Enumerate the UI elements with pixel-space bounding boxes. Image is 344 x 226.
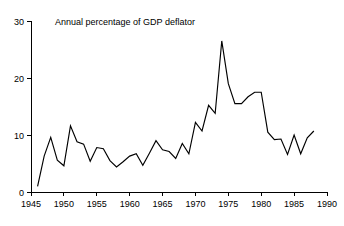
x-axis-ticks: 1945195019551960196519701975198019851990 xyxy=(21,192,337,209)
x-tick-label: 1980 xyxy=(251,199,271,209)
x-tick-label: 1975 xyxy=(218,199,238,209)
x-tick-label: 1985 xyxy=(284,199,304,209)
y-tick-label: 10 xyxy=(14,131,24,141)
chart-figure: Annual percentage of GDP deflator 010203… xyxy=(0,0,344,226)
y-tick-label: 0 xyxy=(19,188,24,198)
y-tick-label: 20 xyxy=(14,74,24,84)
x-tick-label: 1965 xyxy=(153,199,173,209)
x-tick-label: 1950 xyxy=(54,199,74,209)
y-tick-label: 30 xyxy=(14,17,24,27)
x-tick-label: 1970 xyxy=(185,199,205,209)
data-series-line xyxy=(38,41,314,186)
x-axis: 1945195019551960196519701975198019851990 xyxy=(21,192,337,209)
plot-area xyxy=(38,41,314,186)
chart-title: Annual percentage of GDP deflator xyxy=(55,17,195,27)
y-axis-ticks: 0102030 xyxy=(14,17,31,198)
x-tick-label: 1945 xyxy=(21,199,41,209)
x-tick-label: 1960 xyxy=(120,199,140,209)
gdp-deflator-line-chart: Annual percentage of GDP deflator 010203… xyxy=(0,0,344,226)
x-tick-label: 1990 xyxy=(317,199,337,209)
x-tick-label: 1955 xyxy=(87,199,107,209)
y-axis: 0102030 xyxy=(14,17,31,198)
